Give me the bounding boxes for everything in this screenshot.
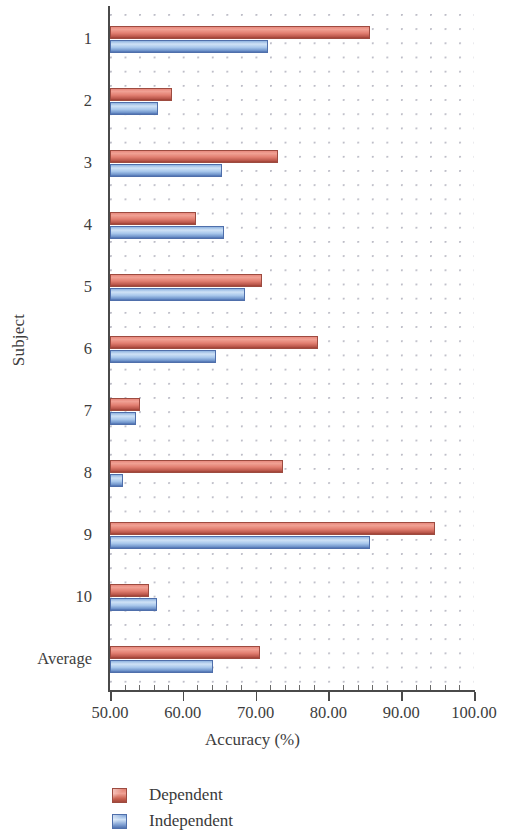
chart-legend: DependentIndependent (112, 782, 412, 834)
bar-independent-6 (110, 350, 216, 363)
bar-independent-average (110, 660, 213, 673)
bar-dependent-10 (110, 584, 149, 597)
y-axis-line (108, 6, 110, 692)
bar-dependent-7 (110, 398, 140, 411)
x-axis-line (109, 690, 475, 692)
x-minor-tick-mark (139, 685, 140, 690)
x-minor-tick-mark (285, 685, 286, 690)
x-tick-label: 80.00 (310, 703, 347, 723)
bar-independent-10 (110, 598, 157, 611)
y-tick-label: 4 (0, 217, 92, 234)
x-minor-tick-mark (270, 685, 271, 690)
x-tick-mark (474, 692, 476, 701)
y-tick-label: 3 (0, 155, 92, 172)
x-minor-tick-mark (241, 685, 242, 690)
x-minor-tick-mark (197, 685, 198, 690)
y-tick-label: 2 (0, 93, 92, 110)
bar-independent-4 (110, 226, 224, 239)
dependent-swatch (112, 788, 127, 803)
bar-dependent-2 (110, 88, 172, 101)
legend-item-dependent[interactable]: Dependent (112, 782, 412, 808)
x-minor-tick-mark (343, 685, 344, 690)
x-tick-mark (401, 692, 403, 701)
x-minor-tick-mark (358, 685, 359, 690)
plot-area (110, 8, 474, 690)
x-minor-tick-mark (168, 685, 169, 690)
y-tick-label: 5 (0, 279, 92, 296)
x-minor-tick-mark (125, 685, 126, 690)
x-minor-tick-mark (212, 685, 213, 690)
bar-independent-2 (110, 102, 158, 115)
legend-label: Dependent (149, 785, 223, 805)
x-tick-label: 50.00 (91, 703, 128, 723)
x-tick-label: 60.00 (164, 703, 201, 723)
bar-dependent-8 (110, 460, 283, 473)
bar-independent-3 (110, 164, 222, 177)
x-minor-tick-mark (314, 685, 315, 690)
x-tick-mark (328, 692, 330, 701)
x-minor-tick-mark (387, 685, 388, 690)
x-minor-tick-mark (459, 685, 460, 690)
bar-independent-1 (110, 40, 268, 53)
y-axis-tick-labels: 12345678910Average (0, 8, 102, 690)
bar-dependent-6 (110, 336, 318, 349)
x-axis-title: Accuracy (%) (0, 730, 505, 750)
x-minor-tick-mark (372, 685, 373, 690)
bar-independent-7 (110, 412, 136, 425)
x-minor-tick-mark (430, 685, 431, 690)
y-tick-label: Average (0, 651, 92, 668)
bar-dependent-3 (110, 150, 278, 163)
bar-independent-8 (110, 474, 123, 487)
x-tick-mark (256, 692, 258, 701)
y-tick-label: 6 (0, 341, 92, 358)
bar-dependent-9 (110, 522, 435, 535)
bar-dependent-average (110, 646, 260, 659)
x-tick-label: 100.00 (451, 703, 496, 723)
independent-swatch (112, 814, 127, 829)
y-tick-label: 7 (0, 403, 92, 420)
x-tick-label: 90.00 (383, 703, 420, 723)
x-minor-tick-mark (445, 685, 446, 690)
y-tick-label: 1 (0, 31, 92, 48)
y-tick-label: 9 (0, 527, 92, 544)
y-tick-label: 8 (0, 465, 92, 482)
bar-independent-5 (110, 288, 245, 301)
legend-item-independent[interactable]: Independent (112, 808, 412, 834)
bar-independent-9 (110, 536, 370, 549)
legend-label: Independent (149, 811, 233, 831)
y-tick-label: 10 (0, 589, 92, 606)
x-minor-tick-mark (154, 685, 155, 690)
x-tick-mark (183, 692, 185, 701)
x-minor-tick-mark (299, 685, 300, 690)
x-tick-label: 70.00 (237, 703, 274, 723)
bar-dependent-5 (110, 274, 262, 287)
x-minor-tick-mark (416, 685, 417, 690)
x-tick-mark (110, 692, 112, 701)
bar-dependent-4 (110, 212, 196, 225)
bar-dependent-1 (110, 26, 370, 39)
bar-chart-figure: Subject 12345678910Average 50.0060.0070.… (0, 0, 505, 838)
x-minor-tick-mark (226, 685, 227, 690)
